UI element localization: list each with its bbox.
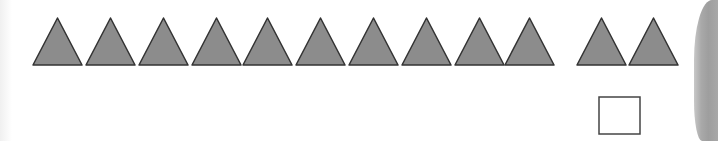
shape-row [0, 0, 718, 141]
triangle-shape [505, 18, 554, 65]
triangle-shape [86, 18, 135, 65]
triangle-shape [629, 18, 678, 65]
triangle-group-two [577, 18, 678, 65]
answer-box[interactable] [599, 97, 640, 134]
triangle-group-ten [33, 18, 554, 65]
triangle-shape [243, 18, 292, 65]
triangle-shape [192, 18, 241, 65]
triangle-shape [455, 18, 504, 65]
triangle-shape [33, 18, 82, 65]
triangle-shape [577, 18, 626, 65]
triangle-shape [349, 18, 398, 65]
page-curl-edge [694, 0, 718, 141]
triangle-shape [139, 18, 188, 65]
triangle-shape [296, 18, 345, 65]
triangle-shape [402, 18, 451, 65]
